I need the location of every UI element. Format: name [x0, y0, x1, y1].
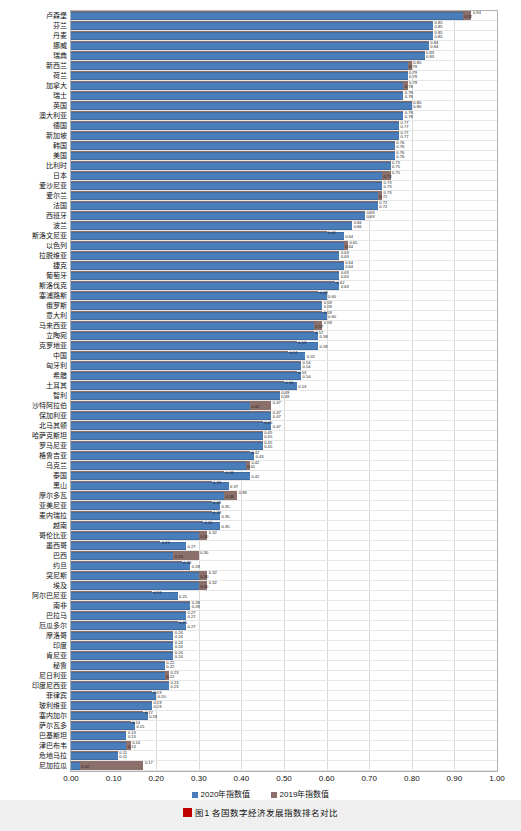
value-label-2020: 0.73	[383, 185, 391, 189]
value-label-2020: 0.02	[81, 765, 89, 769]
x-tick-label: 0.30	[191, 774, 207, 783]
bar-2020	[71, 292, 327, 300]
value-label-2020: 0.49	[281, 395, 289, 399]
bar-row: 0.210.27	[71, 541, 497, 551]
bar-2020	[71, 702, 152, 710]
bar-2020	[71, 642, 173, 650]
bar-2020	[71, 492, 224, 500]
value-label-2020: 0.45	[264, 435, 272, 439]
category-label: 越南	[53, 522, 67, 529]
x-tick-label: 0.00	[63, 774, 79, 783]
bar-row: 0.730.73	[71, 181, 497, 191]
bar-row: 0.720.72	[71, 201, 497, 211]
value-label-2020: 0.22	[166, 665, 174, 669]
bar-2020	[71, 682, 169, 690]
value-label-2019: 0.31	[205, 521, 213, 525]
category-label: 希腊	[53, 372, 67, 379]
value-label-2019: 0.45	[264, 421, 272, 425]
value-label-2020: 0.69	[366, 215, 374, 219]
bar-row: 0.570.58	[71, 331, 497, 341]
bar-2020	[71, 322, 314, 330]
category-label: 德国	[53, 122, 67, 129]
category-label: 巴拉马	[46, 612, 67, 619]
bar-row: 0.770.77	[71, 131, 497, 141]
category-label: 爱沙尼亚	[39, 182, 67, 189]
bar-row: 0.320.30	[71, 571, 497, 581]
x-tick-label: 0.20	[148, 774, 164, 783]
category-label: 英国	[53, 102, 67, 109]
category-label: 土耳其	[46, 382, 67, 389]
value-label-2020: 0.45	[264, 445, 272, 449]
value-label-2020: 0.76	[396, 145, 404, 149]
value-label-2020: 0.30	[200, 585, 208, 589]
bar-2020	[71, 72, 408, 80]
category-label: 韩国	[53, 142, 67, 149]
value-label-2020: 0.64	[345, 245, 353, 249]
value-label-2020: 0.54	[303, 365, 311, 369]
value-label-2020: 0.73	[383, 175, 391, 179]
value-label-2019: 0.53	[298, 341, 306, 345]
category-label: 爱尔兰	[46, 192, 67, 199]
bar-2020	[71, 722, 135, 730]
bar-row: 0.230.22	[71, 671, 497, 681]
value-label-2020: 0.23	[170, 685, 178, 689]
bar-2020	[71, 762, 80, 770]
value-label-2020: 0.78	[405, 95, 413, 99]
value-label-2020: 0.63	[341, 275, 349, 279]
category-label: 挪威	[53, 42, 67, 49]
category-label: 马来西亚	[39, 322, 67, 329]
x-tick-label: 0.70	[361, 774, 377, 783]
value-label-2020: 0.85	[435, 25, 443, 29]
value-label-2019: 0.75	[392, 171, 400, 175]
category-label: 沙特阿拉伯	[32, 402, 67, 409]
bar-row: 0.240.24	[71, 631, 497, 641]
bar-2020	[71, 752, 118, 760]
plot-area: 0.940.920.850.850.850.850.840.840.830.83…	[70, 10, 498, 772]
bar-row: 0.780.78	[71, 111, 497, 121]
value-label-2019: 0.94	[473, 11, 481, 15]
value-label-2020: 0.55	[307, 355, 315, 359]
bar-row: 0.590.60	[71, 311, 497, 321]
bar-row: 0.790.79	[71, 71, 497, 81]
value-label-2020: 0.19	[153, 705, 161, 709]
value-label-2020: 0.27	[188, 625, 196, 629]
value-label-2020: 0.24	[175, 635, 183, 639]
bar-2020	[71, 662, 165, 670]
bar-row: 0.800.79	[71, 61, 497, 71]
value-label-2020: 0.42	[251, 475, 259, 479]
x-tick-label: 1.00	[489, 774, 505, 783]
bar-2020	[71, 262, 344, 270]
category-label: 玻利维亚	[39, 702, 67, 709]
bar-row: 0.140.13	[71, 741, 497, 751]
category-label: 智利	[53, 392, 67, 399]
bar-row: 0.650.64	[71, 241, 497, 251]
bar-2020	[71, 282, 339, 290]
bar-2020	[71, 32, 433, 40]
bar-row: 0.830.83	[71, 51, 497, 61]
category-label: 菲律宾	[46, 692, 67, 699]
bar-2020	[71, 312, 327, 320]
x-tick-label: 0.60	[319, 774, 335, 783]
bar-row: 0.600.64	[71, 231, 497, 241]
legend-swatch-2020	[192, 792, 198, 798]
value-label-2019: 0.50	[286, 381, 294, 385]
category-label: 北马其顿	[39, 422, 67, 429]
bar-row: 0.230.23	[71, 681, 497, 691]
legend-item-2019: 2019年指数值	[271, 788, 330, 799]
bar-row: 0.390.36	[71, 491, 497, 501]
bar-row: 0.320.30	[71, 531, 497, 541]
bar-row: 0.530.58	[71, 341, 497, 351]
bar-row: 0.260.28	[71, 561, 497, 571]
category-label: 日本	[53, 172, 67, 179]
bar-2020	[71, 52, 425, 60]
value-label-2019: 0.51	[290, 351, 298, 355]
bar-row: 0.420.43	[71, 451, 497, 461]
value-label-2019: 0.19	[153, 591, 161, 595]
bar-2020	[71, 372, 301, 380]
bar-row: 0.190.20	[71, 691, 497, 701]
bar-2020	[71, 592, 178, 600]
value-label-2020: 0.24	[175, 555, 183, 559]
category-label: 摩尔多瓦	[39, 492, 67, 499]
bar-row: 0.170.02	[71, 761, 497, 771]
value-label-2020: 0.22	[166, 675, 174, 679]
